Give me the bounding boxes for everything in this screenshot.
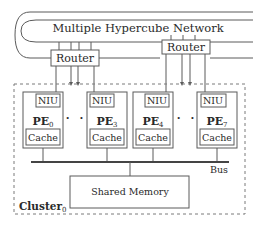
router-1: Router: [51, 42, 99, 94]
cache-label: Cache: [92, 132, 122, 143]
cluster-label: Cluster0: [19, 200, 66, 214]
pe-7: NIU PE7 Cache: [197, 92, 237, 162]
pe-4: NIU PE4 Cache: [133, 92, 173, 162]
cache-label: Cache: [28, 132, 58, 143]
shared-memory-label: Shared Memory: [91, 186, 169, 197]
hypercube-cluster-diagram: Multiple Hypercube Network Router Router…: [0, 0, 262, 228]
ellipsis: · ·: [66, 112, 87, 125]
pe-0: NIU PE0 Cache: [23, 92, 63, 162]
router-label: Router: [167, 41, 206, 54]
router-2: Router: [162, 35, 210, 94]
ellipsis: · ·: [177, 112, 198, 125]
pe-3: NIU PE3 Cache: [87, 92, 127, 162]
niu-label: NIU: [147, 95, 167, 106]
cache-label: Cache: [138, 132, 168, 143]
niu-label: NIU: [92, 95, 112, 106]
cache-label: Cache: [202, 132, 232, 143]
network-label: Multiple Hypercube Network: [52, 21, 224, 35]
niu-label: NIU: [38, 95, 58, 106]
niu-label: NIU: [203, 95, 223, 106]
router-label: Router: [56, 52, 95, 65]
bus-label: Bus: [210, 164, 228, 175]
